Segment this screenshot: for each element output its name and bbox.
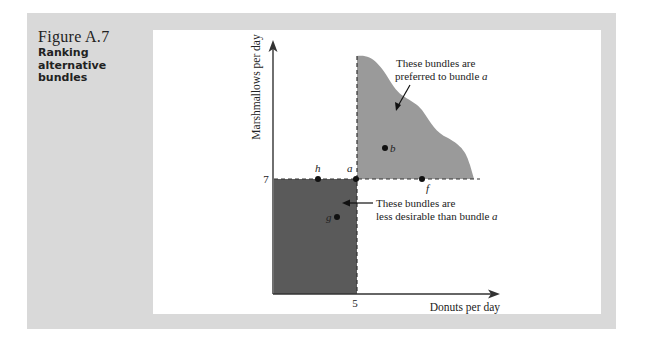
point-g (334, 214, 340, 220)
point-a-label: a (347, 162, 353, 174)
point-f-label: f (426, 182, 431, 194)
point-h-label: h (315, 162, 321, 174)
x-axis-label: Donuts per day (430, 301, 501, 314)
y-axis-label: Marshmallows per day (250, 34, 263, 140)
preferred-annotation-line2: preferred to bundle a (395, 70, 488, 82)
point-b (382, 145, 388, 151)
point-g-label: g (326, 211, 332, 223)
point-b-label: b (390, 142, 396, 154)
less-annotation-line1: These bundles are (376, 197, 456, 209)
tick-x-5: 5 (352, 297, 358, 309)
tick-y-7: 7 (263, 173, 269, 185)
point-h (315, 176, 321, 182)
point-f (419, 176, 425, 182)
preferred-annotation-line1: These bundles are (396, 57, 476, 69)
point-a (353, 176, 359, 182)
less-annotation-line2: less desirable than bundle a (376, 210, 498, 222)
diagram: Marshmallows per day Donuts per day 5 7 … (0, 0, 646, 342)
less-desirable-region (274, 179, 357, 294)
